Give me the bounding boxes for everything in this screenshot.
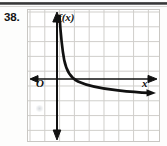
figure-panel: 38. — [0, 0, 167, 146]
function-label: f(x) — [58, 11, 75, 23]
graph-frame — [27, 9, 160, 142]
curve-right-arrowhead — [147, 89, 157, 96]
problem-number: 38. — [4, 11, 19, 23]
x-axis — [30, 75, 157, 82]
y-axis-down-arrowhead — [53, 130, 61, 140]
coordinate-plot-svg — [28, 10, 159, 141]
axes-and-curve — [28, 10, 159, 141]
origin-label: O — [36, 77, 44, 89]
page-top-rule-secondary — [0, 6, 167, 7]
x-axis-label: x — [142, 77, 148, 89]
page-top-rule — [0, 2, 167, 5]
x-axis-right-arrowhead — [148, 75, 157, 82]
